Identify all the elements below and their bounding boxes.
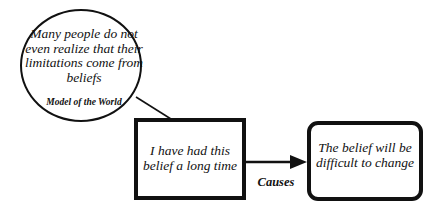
causes-edge-label: Causes: [246, 175, 306, 190]
bubble-text: Many people do not even realize that the…: [22, 27, 146, 85]
source-node-text: I have had this belief a long time: [138, 144, 242, 173]
causes-arrowhead: [290, 155, 307, 169]
target-node-text: The belief will be difficult to change: [311, 141, 419, 170]
bubble-label: Model of the World: [22, 97, 146, 107]
